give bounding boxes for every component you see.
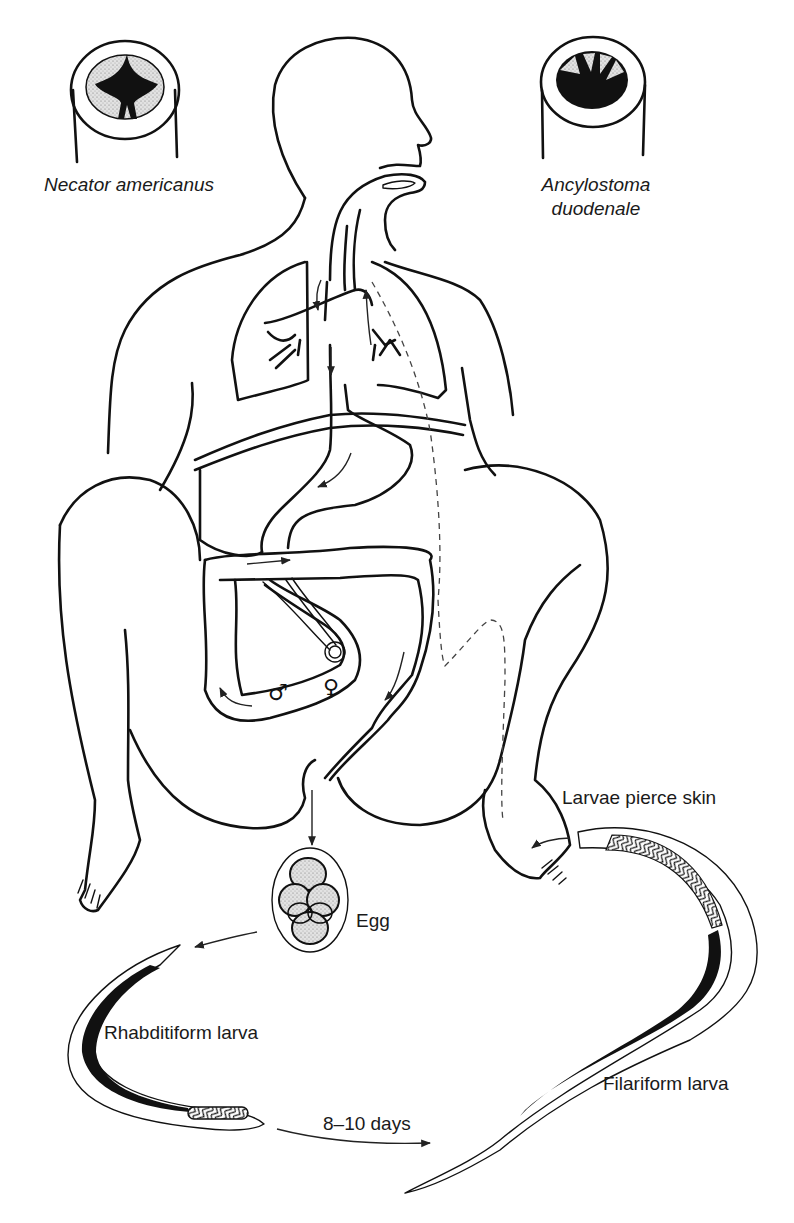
egg-icon [272, 848, 348, 952]
label-egg: Egg [356, 910, 390, 932]
label-ancylostoma-line1: Ancylostoma [531, 174, 661, 196]
ancylostoma-mouth-icon [541, 37, 645, 158]
label-filariform-larva: Filariform larva [603, 1073, 729, 1095]
label-ancylostoma-line2: duodenale [531, 198, 661, 220]
human-figure [59, 38, 608, 911]
egg-to-larva-arrow [195, 932, 257, 947]
label-necator-americanus: Necator americanus [44, 174, 214, 196]
filariform-larva-icon [405, 828, 757, 1193]
necator-mouth-icon [71, 41, 179, 162]
male-symbol: ♂ [268, 680, 288, 705]
female-symbol: ♀ [323, 675, 339, 700]
migration-path [372, 282, 505, 820]
pierce-arrow [532, 838, 570, 848]
label-rhabditiform-larva: Rhabditiform larva [104, 1022, 258, 1044]
label-larvae-pierce-skin: Larvae pierce skin [562, 787, 716, 809]
label-8-10-days: 8–10 days [323, 1113, 411, 1135]
